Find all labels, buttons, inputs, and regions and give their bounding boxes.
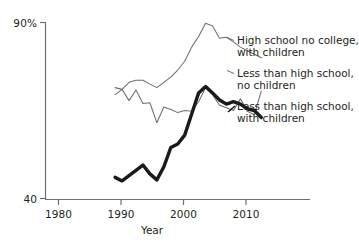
- y-tick-label-40: 40: [0, 193, 37, 205]
- series-label-line-2: no children: [237, 80, 354, 92]
- series-label-line-1: High school no college,: [237, 35, 359, 47]
- series-label-high-school-no-college-with-children: High school no college, with children: [237, 35, 359, 58]
- series-label-line-2: with children: [237, 47, 359, 59]
- x-tick-label-2010: 2010: [224, 208, 269, 220]
- x-tick-label-1990: 1990: [99, 208, 144, 220]
- series-label-line-1: Less than high school,: [237, 101, 354, 113]
- series-label-less-than-high-school-no-children: Less than high school, no children: [237, 68, 354, 91]
- y-tick-label-90: 90%: [0, 17, 37, 29]
- series-label-line-2: with children: [237, 113, 354, 125]
- x-tick-label-1980: 1980: [36, 208, 81, 220]
- series-label-less-than-high-school-with-children: Less than high school, with children: [237, 101, 354, 124]
- x-axis-title: Year: [122, 224, 182, 236]
- x-tick-label-2000: 2000: [161, 208, 206, 220]
- leader-line-series-2: [227, 71, 234, 74]
- chart-figure: 90% 40 1980 1990 2000 2010 Year High sch…: [0, 0, 359, 242]
- series-label-line-1: Less than high school,: [237, 68, 354, 80]
